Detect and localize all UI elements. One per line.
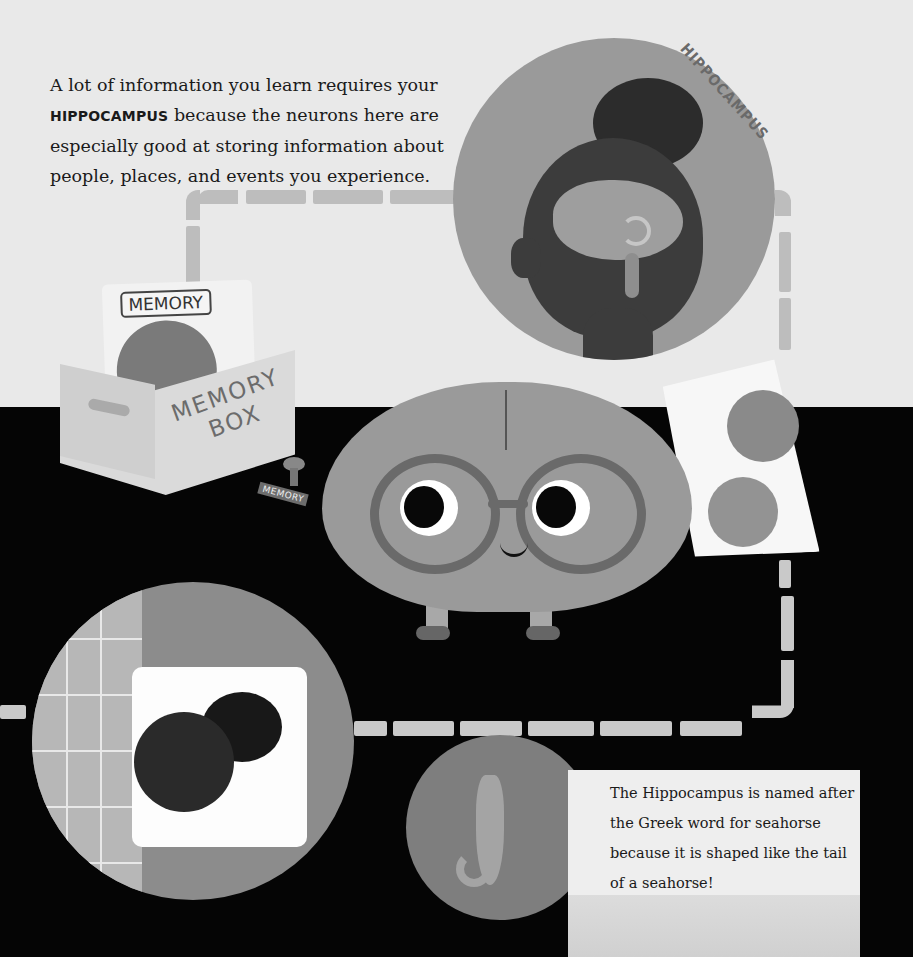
brain-icon	[553, 180, 683, 260]
left-shoe	[416, 626, 450, 640]
hippocampus-curl-icon	[621, 216, 651, 246]
sleeper-head	[134, 712, 234, 812]
brain-stem	[625, 253, 639, 298]
brain-fold	[505, 390, 507, 450]
seahorse-icon	[406, 735, 594, 920]
bed-sheet	[32, 582, 142, 900]
glasses-bridge	[488, 500, 528, 508]
hippocampus-keyword: HIPPOCAMPUS	[50, 108, 168, 124]
sleeping-child-icon	[32, 582, 354, 900]
seahorse-figure	[466, 765, 516, 895]
glasses-left-lens	[370, 454, 500, 574]
brain-mascot-icon	[322, 382, 692, 612]
neck-silhouette	[583, 308, 653, 360]
book-page: A lot of information you learn requires …	[0, 0, 913, 957]
nose-silhouette	[511, 238, 541, 278]
photo-drums-icon	[727, 390, 799, 462]
stamp-stem	[290, 468, 298, 486]
memory-card-label: MEMORY	[120, 289, 211, 318]
fact-box-fade	[568, 895, 860, 957]
right-shoe	[526, 626, 560, 640]
glasses-right-lens	[516, 454, 646, 574]
intro-text-prefix: A lot of information you learn requires …	[50, 75, 438, 95]
fact-text: The Hippocampus is named after the Greek…	[610, 778, 860, 898]
photo-school-icon	[708, 477, 778, 547]
intro-paragraph: A lot of information you learn requires …	[50, 70, 470, 191]
